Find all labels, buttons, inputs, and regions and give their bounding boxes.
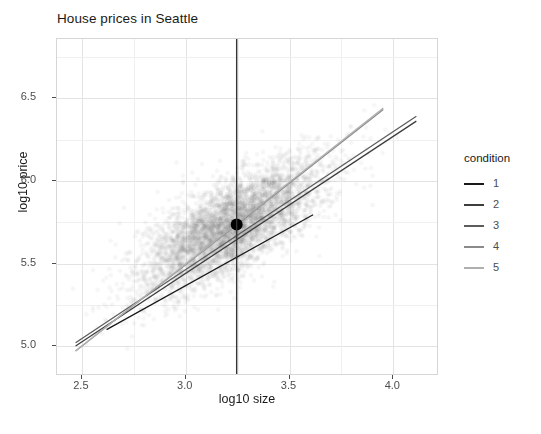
x-tick-mark xyxy=(392,375,393,379)
y-tick-mark xyxy=(52,180,56,181)
x-tick-mark xyxy=(185,375,186,379)
x-tick-label: 3.5 xyxy=(269,379,309,391)
legend-item-4[interactable]: 4 xyxy=(464,236,536,257)
legend-item-2[interactable]: 2 xyxy=(464,194,536,215)
legend-title: condition xyxy=(464,152,536,164)
legend-item-1[interactable]: 1 xyxy=(464,173,536,194)
legend-key-icon xyxy=(464,225,484,227)
plot-panel xyxy=(56,38,438,375)
legend-key-icon xyxy=(464,246,484,248)
x-tick-mark xyxy=(81,375,82,379)
y-tick-mark xyxy=(52,97,56,98)
y-tick-mark xyxy=(52,345,56,346)
legend-item-5[interactable]: 5 xyxy=(464,257,536,278)
legend-item-label: 2 xyxy=(493,199,499,210)
y-tick-label: 5.0 xyxy=(21,338,36,350)
legend-item-label: 5 xyxy=(493,262,499,273)
legend-item-label: 3 xyxy=(493,220,499,231)
y-axis-title: log10 price xyxy=(16,112,30,252)
x-tick-label: 3.0 xyxy=(165,379,205,391)
y-tick-mark xyxy=(52,263,56,264)
x-axis-title: log10 size xyxy=(56,392,438,406)
figure-container: House prices in Seattle 5.05.56.06.5 2.5… xyxy=(0,0,541,434)
legend-item-3[interactable]: 3 xyxy=(464,215,536,236)
page-title: House prices in Seattle xyxy=(57,11,198,26)
y-tick-label: 6.5 xyxy=(21,90,36,102)
x-tick-label: 4.0 xyxy=(372,379,412,391)
y-tick-label: 5.5 xyxy=(21,256,36,268)
legend-item-label: 1 xyxy=(493,178,499,189)
legend-key-icon xyxy=(464,183,484,185)
legend-items: 12345 xyxy=(464,173,536,278)
legend: condition 12345 xyxy=(464,152,536,278)
legend-key-icon xyxy=(464,204,484,206)
x-axis-tick-labels: 2.53.03.54.0 xyxy=(56,377,438,393)
legend-key-icon xyxy=(464,267,484,269)
x-tick-mark xyxy=(289,375,290,379)
prediction-marker-layer xyxy=(57,39,437,374)
x-tick-label: 2.5 xyxy=(61,379,101,391)
legend-item-label: 4 xyxy=(493,241,499,252)
